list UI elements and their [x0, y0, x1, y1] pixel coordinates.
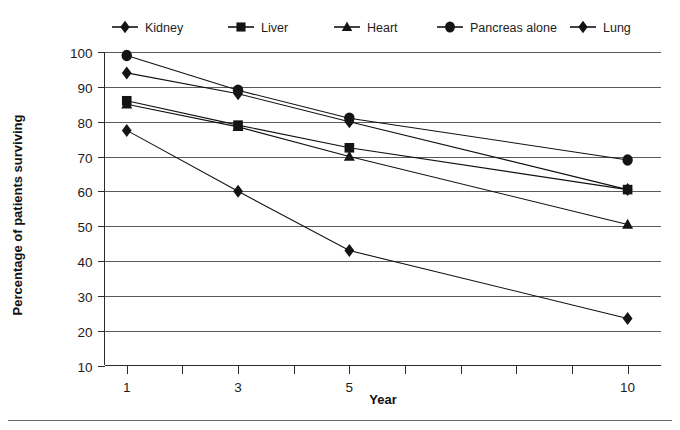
x-tick-label: 3 [234, 380, 242, 395]
grid-lines [105, 53, 662, 332]
y-axis-ticks: 102030405060708090100 [70, 46, 105, 375]
y-tick-label: 40 [77, 255, 92, 270]
data-point-lung [344, 244, 354, 257]
legend-marker-diamond-icon [578, 21, 587, 33]
data-point-lung [122, 124, 132, 137]
data-point-pancreas-alone [344, 112, 354, 124]
legend-label-lung: Lung [603, 21, 631, 35]
y-tick-label: 100 [70, 46, 93, 61]
y-tick-label: 20 [77, 325, 92, 340]
data-point-pancreas-alone [233, 85, 243, 97]
y-tick-label: 10 [77, 360, 92, 375]
data-point-lung [623, 312, 633, 325]
y-tick-label: 50 [77, 220, 92, 235]
data-point-pancreas-alone [122, 50, 132, 62]
y-tick-label: 30 [77, 290, 92, 305]
legend-marker-square-icon [236, 22, 245, 31]
x-tick-label: 1 [123, 380, 131, 395]
x-axis-ticks: 13510 [123, 366, 635, 395]
legend-marker-diamond-icon [120, 21, 129, 33]
legend-label-liver: Liver [261, 21, 288, 35]
y-tick-label: 60 [77, 185, 92, 200]
x-axis-title: Year [369, 392, 396, 407]
data-series-group [121, 50, 633, 325]
legend-label-heart: Heart [367, 21, 398, 35]
legend-marker-circle-icon [445, 21, 455, 32]
legend-label-kidney: Kidney [145, 21, 184, 35]
data-point-kidney [122, 66, 132, 79]
data-point-lung [233, 185, 243, 198]
y-tick-label: 90 [77, 81, 92, 96]
x-tick-label: 10 [620, 380, 635, 395]
series-line-pancreas-alone [127, 55, 628, 160]
x-tick-label: 5 [346, 380, 354, 395]
series-line-liver [127, 101, 628, 190]
legend-label-pancreas-alone: Pancreas alone [470, 21, 557, 35]
y-axis-title: Percentage of patients surviving [10, 115, 25, 316]
series-line-lung [127, 130, 628, 318]
survival-line-chart: KidneyLiverHeartPancreas aloneLung 10203… [0, 0, 680, 430]
data-point-liver [623, 185, 633, 195]
data-point-pancreas-alone [622, 154, 632, 166]
chart-legend: KidneyLiverHeartPancreas aloneLung [112, 21, 631, 35]
y-tick-label: 70 [77, 151, 92, 166]
y-tick-label: 80 [77, 116, 92, 131]
